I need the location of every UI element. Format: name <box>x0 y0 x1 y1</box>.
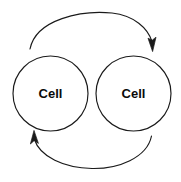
cell-cycle-diagram: Cell Cell <box>0 0 181 182</box>
node-cell-left-label: Cell <box>39 86 63 101</box>
node-cell-left[interactable]: Cell <box>13 56 88 131</box>
arrow-top <box>30 12 156 51</box>
node-cell-right-label: Cell <box>122 86 146 101</box>
arrow-bottom <box>30 130 151 168</box>
diagram-canvas: Cell Cell <box>0 0 181 182</box>
arrow-bottom-head-icon <box>30 130 38 144</box>
node-cell-right[interactable]: Cell <box>96 56 171 131</box>
arrow-top-head-icon <box>148 37 156 51</box>
arrow-bottom-path <box>34 136 151 169</box>
arrow-top-path <box>30 12 152 49</box>
